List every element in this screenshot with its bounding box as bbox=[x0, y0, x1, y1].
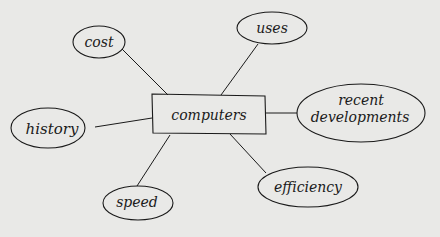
node-label-efficiency: efficiency bbox=[274, 179, 343, 195]
node-label-recent: recent bbox=[338, 92, 384, 108]
node-uses: uses bbox=[237, 12, 307, 44]
connector-history bbox=[95, 118, 152, 127]
node-history: history bbox=[11, 108, 85, 148]
center-node-computers: computers bbox=[152, 94, 266, 134]
center-label: computers bbox=[171, 107, 246, 123]
node-label-history: history bbox=[26, 120, 79, 138]
node-efficiency: efficiency bbox=[258, 167, 358, 207]
connector-uses bbox=[221, 44, 258, 95]
node-label-developments: developments bbox=[311, 109, 410, 125]
connector-cost bbox=[122, 49, 168, 95]
node-speed: speed bbox=[103, 186, 173, 220]
mind-map-diagram: computers cost uses recent developments … bbox=[0, 0, 440, 237]
node-label-uses: uses bbox=[256, 20, 288, 36]
node-label-speed: speed bbox=[116, 194, 158, 210]
node-recent-developments: recent developments bbox=[297, 84, 425, 142]
node-cost: cost bbox=[73, 26, 125, 58]
connector-efficiency bbox=[230, 134, 266, 173]
connector-speed bbox=[137, 135, 170, 186]
node-label-cost: cost bbox=[84, 34, 113, 50]
